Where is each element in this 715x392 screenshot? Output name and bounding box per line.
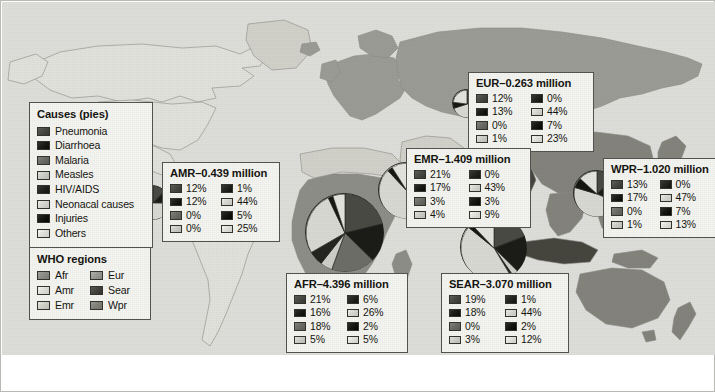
legend-row-neonacal-causes: 44% [221,195,272,208]
cause-swatch-diarrhoea [37,141,50,150]
who-label-sear: Sear [108,284,130,298]
pct-label-diarrhoea: 18% [465,306,485,320]
legend-row-neonacal-causes: 26% [347,306,400,319]
pct-label-hiv-aids: 0% [485,168,500,182]
callout-percentages: 12%1%12%44%0%5%0%25% [170,182,272,236]
legend-row-injuries: 7% [531,119,586,132]
world-map-canvas: Causes (pies) PneumoniaDiarrhoeaMalariaM… [2,2,715,355]
pct-label-neonacal-causes: 44% [547,105,567,119]
pct-swatch-diarrhoea [294,309,306,318]
callout-percentages: 21%0%17%43%3%3%4%9% [414,168,523,222]
legend-row-pneumonia: 19% [449,293,505,306]
pct-swatch-pneumonia [476,94,488,103]
pct-swatch-others [221,225,233,234]
legend-row-pneumonia: 13% [611,178,660,191]
pct-swatch-diarrhoea [449,309,461,318]
legend-row-measles: 4% [414,208,469,221]
who-label-amr: Amr [55,284,74,298]
legend-row-injuries: Injuries [37,212,145,227]
legend-row-hiv-aids: 1% [505,293,561,306]
legend-row-pneumonia: Pneumonia [37,124,145,139]
who-label-wpr: Wpr [108,299,127,313]
cause-label-others: Others [55,227,86,241]
pct-label-injuries: 7% [676,205,691,219]
pct-label-pneumonia: 13% [627,178,647,192]
who-swatch-afr [37,271,50,280]
pct-label-measles: 4% [430,208,445,222]
legend-row-neonacal-causes: 44% [531,105,586,118]
pct-label-hiv-aids: 6% [363,293,378,307]
pct-label-neonacal-causes: 43% [485,181,505,195]
pct-swatch-pneumonia [611,180,623,189]
pct-swatch-measles [414,211,426,220]
cause-swatch-hiv_aids [37,185,50,194]
legend-row-malaria: 0% [449,320,505,333]
pct-swatch-others [469,211,481,220]
pct-swatch-malaria [449,322,461,331]
pct-label-others: 12% [521,333,541,347]
pct-label-pneumonia: 21% [430,168,450,182]
legend-row-others: 25% [221,222,272,235]
pct-swatch-others [660,221,672,230]
pct-swatch-measles [170,225,182,234]
pct-label-pneumonia: 21% [310,293,330,307]
pct-label-hiv-aids: 0% [547,92,562,106]
callout-percentages: 12%0%13%44%0%7%1%23% [476,92,586,146]
pct-swatch-hiv-aids [347,295,359,304]
legend-row-diarrhoea: Diarrhoea [37,139,145,154]
legend-row-diarrhoea: 18% [449,306,505,319]
pct-label-others: 13% [676,218,696,232]
pct-swatch-hiv-aids [221,184,233,193]
cause-swatch-injuries [37,214,50,223]
pct-swatch-malaria [611,207,623,216]
pct-label-neonacal-causes: 26% [363,306,383,320]
pct-label-injuries: 3% [485,195,500,209]
pct-swatch-malaria [170,211,182,220]
callout-title: AMR–0.439 million [170,167,272,179]
pct-label-pneumonia: 12% [492,92,512,106]
pct-label-measles: 5% [310,333,325,347]
pie-slice-others [453,90,467,104]
legend-row-others: 23% [531,132,586,145]
legend-row-malaria: 0% [476,119,531,132]
pct-swatch-injuries [221,211,233,220]
legend-row-others: 13% [660,218,709,231]
pct-label-others: 25% [237,222,257,236]
pct-swatch-diarrhoea [611,194,623,203]
pct-label-diarrhoea: 17% [627,191,647,205]
cause-label-measles: Measles [55,168,93,182]
legend-row-others: 9% [469,208,524,221]
legend-row-diarrhoea: 17% [611,191,660,204]
pct-swatch-hiv-aids [660,180,672,189]
pct-swatch-injuries [347,322,359,331]
pct-label-malaria: 3% [430,195,445,209]
legend-row-injuries: 5% [221,209,272,222]
who-swatch-sear [90,286,103,295]
pct-label-others: 9% [485,208,500,222]
pie-afr [305,193,383,271]
pct-label-diarrhoea: 17% [430,181,450,195]
pct-label-diarrhoea: 12% [186,195,206,209]
pct-label-malaria: 18% [310,320,330,334]
pct-swatch-neonacal-causes [660,194,672,203]
legend-row-pneumonia: 12% [170,182,221,195]
pct-label-measles: 3% [465,333,480,347]
pct-label-malaria: 0% [465,320,480,334]
legend-row-malaria: Malaria [37,153,145,168]
pct-swatch-others [531,135,543,144]
pct-label-measles: 1% [627,218,642,232]
who-swatch-wpr [90,301,103,310]
pct-swatch-measles [449,336,461,345]
pct-swatch-malaria [476,121,488,130]
pct-swatch-pneumonia [414,170,426,179]
pct-swatch-malaria [294,322,306,331]
pct-label-neonacal-causes: 44% [237,195,257,209]
legend-row-hiv-aids: 0% [469,168,524,181]
cause-swatch-others [37,229,50,238]
pct-swatch-others [505,336,517,345]
callout-title: EUR–0.263 million [476,77,586,89]
legend-row-amr: Amr [37,283,90,298]
pct-swatch-measles [476,135,488,144]
pct-label-hiv-aids: 1% [237,182,252,196]
pct-label-injuries: 5% [237,209,252,223]
